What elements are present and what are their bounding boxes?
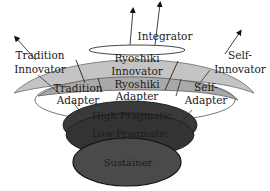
layered-disc-diagram: Integrator Tradition Innovator Ryoshiki … — [0, 0, 270, 191]
label-self-innovator-line1: Self- — [228, 49, 252, 61]
label-tradition-adapter-line2: Adapter — [56, 94, 101, 106]
label-ryoshiki-innovator-line1: Ryoshiki — [114, 52, 160, 64]
label-self-adapter-line2: Adapter — [184, 94, 229, 106]
label-ryoshiki-innovator-line2: Innovator — [111, 65, 164, 77]
label-ryoshiki-adapter-line1: Ryoshiki — [114, 78, 160, 90]
label-high-pragmatic: High Pragmatic — [92, 110, 172, 121]
label-integrator: Integrator — [138, 30, 194, 42]
label-tradition-adapter-line1: Tradition — [53, 82, 102, 94]
label-ryoshiki-adapter-line2: Adapter — [115, 90, 160, 102]
arrow-icon — [130, 10, 133, 45]
label-tradition-innovator-line2: Innovator — [14, 63, 67, 75]
label-self-adapter-line1: Self- — [194, 81, 218, 93]
label-self-innovator-line2: Innovator — [214, 63, 267, 75]
label-sustainer: Sustainer — [104, 157, 153, 168]
label-low-pragmatic: Low Pragmatic — [92, 128, 169, 139]
label-tradition-innovator-line1: Tradition — [15, 49, 64, 61]
